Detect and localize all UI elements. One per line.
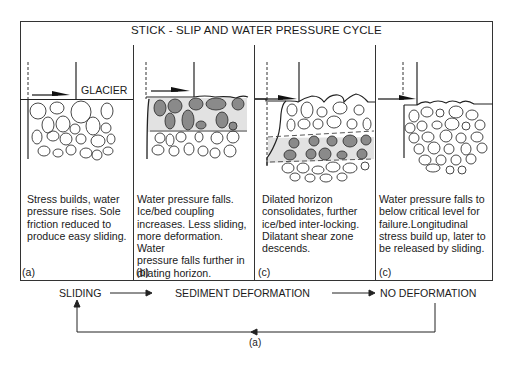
text-line: friction reduced to bbox=[27, 218, 131, 230]
clasts bbox=[152, 131, 239, 158]
panel-a-label: (a) bbox=[22, 266, 35, 278]
stage-no-deformation: NO DEFORMATION bbox=[380, 287, 476, 299]
panel-b-sketch bbox=[146, 62, 248, 159]
arrow-up-icon bbox=[74, 300, 80, 307]
panel-c1-description: Dilated horizon consolidates, further ic… bbox=[262, 193, 374, 254]
stage-sliding: SLIDING bbox=[59, 287, 101, 299]
arrow-right-icon bbox=[369, 290, 375, 296]
diagram-artwork bbox=[0, 0, 511, 367]
panel-c2-sketch bbox=[378, 62, 493, 174]
text-line: failure.Longitudinal bbox=[379, 218, 493, 230]
panel-a-description: Stress builds, water pressure rises. Sol… bbox=[27, 193, 131, 242]
panel-c1-label: (c) bbox=[258, 266, 270, 278]
arrow-icon bbox=[278, 95, 297, 100]
text-line: below critical level for bbox=[379, 205, 493, 217]
glacier-label: GLACIER bbox=[81, 84, 128, 96]
text-line: descends. bbox=[262, 242, 374, 254]
arrow-left-icon bbox=[251, 329, 257, 335]
panel-c2-label: (c) bbox=[379, 266, 391, 278]
text-line: Water pressure falls. bbox=[137, 193, 253, 205]
stage-sediment-deformation: SEDIMENT DEFORMATION bbox=[175, 287, 310, 299]
text-line: Water pressure falls to bbox=[379, 193, 493, 205]
panel-c2-description: Water pressure falls to below critical l… bbox=[379, 193, 493, 254]
text-line: dilating horizon. bbox=[137, 267, 253, 279]
text-line: produce easy sliding. bbox=[27, 230, 131, 242]
arrow-right-icon bbox=[146, 290, 152, 296]
arrow-icon bbox=[52, 91, 70, 96]
panel-a-sketch bbox=[20, 62, 133, 160]
text-line: Stress builds, water bbox=[27, 193, 131, 205]
text-line: Dilatant shear zone bbox=[262, 230, 374, 242]
panel-b-description: Water pressure falls. Ice/bed coupling i… bbox=[137, 193, 253, 279]
arrow-icon bbox=[399, 95, 416, 100]
clasts bbox=[30, 101, 115, 160]
text-line: consolidates, further bbox=[262, 205, 374, 217]
text-line: more deformation. Water bbox=[137, 230, 253, 255]
clasts bbox=[405, 106, 487, 174]
text-line: Dilated horizon bbox=[262, 193, 374, 205]
text-line: stress build up, later to bbox=[379, 230, 493, 242]
panel-b-label: (b) bbox=[136, 266, 149, 278]
loop-label: (a) bbox=[249, 337, 261, 348]
text-line: pressure rises. Sole bbox=[27, 205, 131, 217]
text-line: increases. Less sliding, bbox=[137, 218, 253, 230]
text-line: be released by sliding. bbox=[379, 242, 493, 254]
text-line: pressure falls further in bbox=[137, 254, 253, 266]
text-line: ice/bed inter-locking. bbox=[262, 218, 374, 230]
text-line: Ice/bed coupling bbox=[137, 205, 253, 217]
arrow-icon bbox=[171, 87, 190, 92]
panel-c1-sketch bbox=[255, 62, 375, 182]
